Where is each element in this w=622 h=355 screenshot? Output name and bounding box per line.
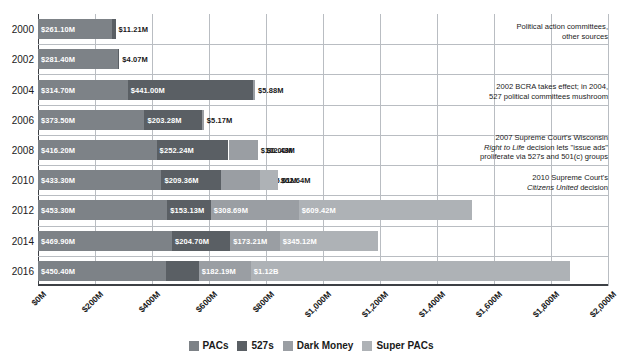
year-label-2016: 2016 <box>0 265 34 276</box>
bar-segment-2006-527s: $203.28M <box>144 110 202 130</box>
x-tick-600M: $600M <box>194 289 219 314</box>
bar-segment-2014-527s: $204.70M <box>172 231 230 251</box>
row-separator <box>38 256 608 257</box>
year-label-2000: 2000 <box>0 24 34 35</box>
bar-segment-2014-pacs: $469.90M <box>38 231 172 251</box>
bar-segment-2000-pacs: $261.10M <box>38 19 112 39</box>
legend-swatch-icon <box>283 341 293 351</box>
legend-label: Dark Money <box>297 340 354 351</box>
gridline-2000M <box>608 14 609 286</box>
annotation-2008: 2007 Supreme Court's WisconsinRight to L… <box>480 133 608 162</box>
legend-item-dark-money[interactable]: Dark Money <box>283 340 354 351</box>
bar-segment-2014-super-pacs: $345.12M <box>280 231 378 251</box>
legend-label: 527s <box>251 340 273 351</box>
bar-segment-2010-super-pacs <box>260 170 278 190</box>
bar-segment-2006-pacs: $373.50M <box>38 110 144 130</box>
bar-segment-2002-527s <box>118 49 119 69</box>
bar-segment-2000-527s <box>112 19 115 39</box>
bar-segment-2010-dark-money <box>221 170 260 190</box>
bar-segment-2004-527s: $441.00M <box>128 80 254 100</box>
year-label-2012: 2012 <box>0 205 34 216</box>
bar-segment-2012-527s: $153.13M <box>167 200 211 220</box>
legend-swatch-icon <box>189 341 199 351</box>
legend-item-pacs[interactable]: PACs <box>189 340 229 351</box>
bar-row-2012: $453.30M$153.13M$308.69M$609.42M <box>38 200 608 220</box>
x-tick-800M: $800M <box>251 289 276 314</box>
row-separator <box>38 226 608 227</box>
x-tick-1400M: $1,400M <box>417 289 447 319</box>
x-tick-400M: $400M <box>137 289 162 314</box>
bar-segment-2012-super-pacs: $609.42M <box>299 200 473 220</box>
row-separator <box>38 105 608 106</box>
row-separator <box>38 165 608 166</box>
bar-segment-2016-super-pacs: $1.12B <box>251 261 570 281</box>
year-label-2002: 2002 <box>0 54 34 65</box>
x-tick-1200M: $1,200M <box>360 289 390 319</box>
bar-segment-2002-pacs: $281.40M <box>38 49 118 69</box>
legend-swatch-icon <box>362 341 372 351</box>
bar-segment-2008-pacs: $416.20M <box>38 140 157 160</box>
bar-segment-2010-pacs: $433.30M <box>38 170 161 190</box>
bar-row-2002: $281.40M$4.07M <box>38 49 608 69</box>
stacked-bar-chart: 200020022004200620082010201220142016 $26… <box>0 0 622 355</box>
row-separator <box>38 74 608 75</box>
bar-segment-2012-dark-money: $308.69M <box>211 200 299 220</box>
bar-row-2010: $433.30M$209.36M$135.61M$62.64M <box>38 170 608 190</box>
annotation-2004: 2002 BCRA takes effect; in 2004,527 poli… <box>489 82 608 101</box>
annotation-2010: 2010 Supreme Court'sCitizens United deci… <box>527 173 608 192</box>
bar-segment-2010-527s: $209.36M <box>161 170 221 190</box>
bar-segment-2016-pacs: $450.40M <box>38 261 166 281</box>
year-label-2010: 2010 <box>0 175 34 186</box>
bar-segment-2016-527s <box>166 261 198 281</box>
bar-segment-2014-dark-money: $173.21M <box>230 231 279 251</box>
x-tick-1000M: $1,000M <box>303 289 333 319</box>
bar-segment-2004-pacs: $314.70M <box>38 80 128 100</box>
bar-segment-2012-pacs: $453.30M <box>38 200 167 220</box>
chart-legend: PACs527sDark MoneySuper PACs <box>0 340 622 351</box>
bar-row-2016: $450.40M$113.80M$182.19M$1.12B <box>38 261 608 281</box>
x-tick-2000M: $2,000M <box>588 289 618 319</box>
x-tick-1800M: $1,800M <box>531 289 561 319</box>
bar-segment-2008-527s: $252.24M <box>157 140 229 160</box>
legend-swatch-icon <box>237 341 247 351</box>
x-tick-0M: $0M <box>29 289 48 308</box>
bar-segment-2008-dark-money <box>229 140 258 160</box>
x-tick-200M: $200M <box>80 289 105 314</box>
year-label-2004: 2004 <box>0 84 34 95</box>
legend-item-527s[interactable]: 527s <box>237 340 273 351</box>
row-separator <box>38 44 608 45</box>
bar-row-2006: $373.50M$203.28M$5.17M <box>38 110 608 130</box>
x-tick-1600M: $1,600M <box>474 289 504 319</box>
bar-segment-2004-dark-money <box>253 80 255 100</box>
legend-item-super-pacs[interactable]: Super PACs <box>362 340 433 351</box>
bar-segment-2006-dark-money <box>202 110 203 130</box>
year-label-2014: 2014 <box>0 235 34 246</box>
row-separator <box>38 195 608 196</box>
legend-label: PACs <box>203 340 229 351</box>
year-label-2006: 2006 <box>0 114 34 125</box>
bar-row-2014: $469.90M$204.70M$173.21M$345.12M <box>38 231 608 251</box>
year-label-2008: 2008 <box>0 145 34 156</box>
legend-label: Super PACs <box>376 340 433 351</box>
x-axis-line <box>38 284 608 286</box>
annotation-2000: Political action committees,other source… <box>516 22 608 41</box>
bar-segment-2016-dark-money: $182.19M <box>199 261 251 281</box>
